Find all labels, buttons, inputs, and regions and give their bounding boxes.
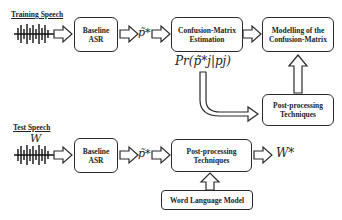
arrow-up-icon bbox=[201, 173, 219, 190]
word-language-model-box: Word Language Model bbox=[161, 190, 253, 210]
output-w-star-symbol: W* bbox=[276, 146, 294, 160]
confusion-matrix-estimation-box: Confusion-Matrix Estimation bbox=[171, 17, 243, 52]
baseline-asr-box-test: Baseline ASR bbox=[74, 138, 118, 173]
arrow-right-icon bbox=[254, 147, 272, 163]
test-waveform-icon bbox=[14, 145, 54, 165]
baseline-asr-box-training: Baseline ASR bbox=[74, 17, 118, 52]
modelling-confusion-matrix-box: Modelling of the Confusion-Matrix bbox=[262, 17, 334, 52]
post-processing-box-test: Post-processing Techniques bbox=[171, 139, 252, 172]
p-tilde-star-test: p̃* bbox=[138, 147, 151, 160]
curved-arrow-icon bbox=[200, 72, 258, 121]
test-speech-label: Test Speech bbox=[13, 123, 50, 132]
probability-label: Pr(p̃*j|pj) bbox=[175, 54, 231, 68]
training-waveform-icon bbox=[14, 24, 54, 44]
p-tilde-star-training: p̃* bbox=[138, 26, 151, 39]
arrow-right-icon bbox=[54, 26, 72, 42]
post-processing-box-training: Post-processing Techniques bbox=[262, 94, 334, 126]
input-w-symbol: W bbox=[30, 132, 41, 145]
arrow-right-icon bbox=[152, 26, 170, 42]
training-speech-label: Training Speech bbox=[11, 10, 63, 19]
arrow-right-icon bbox=[120, 147, 138, 163]
arrow-right-icon bbox=[120, 26, 138, 42]
arrow-right-icon bbox=[152, 147, 170, 163]
arrow-up-icon bbox=[289, 55, 307, 93]
arrow-right-icon bbox=[54, 147, 72, 163]
arrow-right-icon bbox=[243, 26, 261, 42]
